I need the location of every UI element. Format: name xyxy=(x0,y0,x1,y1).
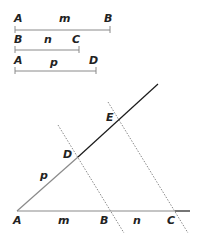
base-m-label: m xyxy=(58,214,69,227)
segment-p-length-label: p xyxy=(49,56,58,69)
segment-n-length-label: n xyxy=(44,33,52,46)
ray-p-label: p xyxy=(39,169,48,182)
segment-m: A m B xyxy=(13,12,112,33)
ray-de-extension xyxy=(78,84,158,157)
construction-diagram: A m B B n C A p D A m B n C p D xyxy=(0,0,199,239)
point-e-label: E xyxy=(106,111,114,124)
segment-m-length-label: m xyxy=(59,12,70,25)
segment-n-end-label: C xyxy=(72,33,80,46)
segment-m-end-label: B xyxy=(104,12,112,25)
point-b-label: B xyxy=(100,214,108,227)
segment-p-end-label: D xyxy=(89,54,98,67)
segment-p-start-label: A xyxy=(13,54,23,67)
ray-ad xyxy=(17,157,78,211)
segment-n-start-label: B xyxy=(14,33,22,46)
segment-p: A p D xyxy=(13,54,98,74)
base-n-label: n xyxy=(133,214,141,227)
construction: A m B n C p D E xyxy=(12,84,190,233)
parallel-line-ec xyxy=(108,102,188,233)
point-d-label: D xyxy=(63,148,72,161)
point-a-label: A xyxy=(12,214,22,227)
segment-n: B n C xyxy=(14,33,80,53)
point-c-label: C xyxy=(167,214,175,227)
segment-m-start-label: A xyxy=(13,12,23,25)
